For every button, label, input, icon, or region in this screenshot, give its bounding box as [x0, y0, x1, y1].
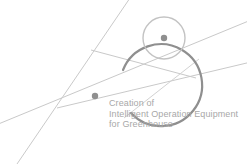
small-circle-center-dot: [161, 35, 167, 41]
title-line-1: Creation of: [109, 98, 245, 109]
logo-artwork: [0, 0, 247, 165]
large-circle-center-dot: [92, 93, 98, 99]
logo-canvas: Creation of Intelligent Operation Equipm…: [0, 0, 247, 165]
title-line-2: Intelligent Operation Equipment: [109, 109, 245, 120]
title-line-3: for Greenhouse: [109, 119, 245, 130]
diagonal-line-steep: [17, 0, 130, 164]
logo-title-block: Creation of Intelligent Operation Equipm…: [109, 98, 245, 130]
